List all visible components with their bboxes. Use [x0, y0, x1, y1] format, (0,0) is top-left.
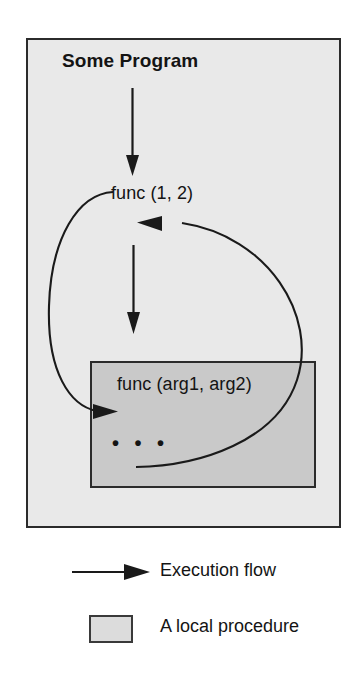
legend-item-execution-flow: Execution flow [0, 556, 361, 598]
legend-label-execution-flow: Execution flow [160, 560, 276, 581]
procedure-call-diagram: Some Program func (1, 2) func (arg1, arg… [0, 0, 361, 682]
procedure-body-ellipsis: • • • [112, 432, 169, 455]
execution-flow-arrow-icon [70, 560, 152, 584]
legend-label-local-procedure: A local procedure [160, 616, 299, 637]
legend-item-local-procedure: A local procedure [0, 612, 361, 654]
legend: Execution flow A local procedure [0, 556, 361, 676]
procedure-signature-label: func (arg1, arg2) [117, 374, 252, 395]
caller-call-label: func (1, 2) [111, 183, 193, 204]
program-title: Some Program [62, 50, 198, 72]
local-procedure-swatch-icon [89, 615, 133, 643]
